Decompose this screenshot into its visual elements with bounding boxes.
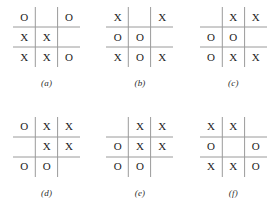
tic-tac-toe-board: XXOOXXO <box>200 117 267 177</box>
board-square-r1-c3[interactable] <box>244 117 266 137</box>
board-square-r2-c1[interactable] <box>13 137 35 157</box>
board-square-r3-c3[interactable] <box>58 157 80 177</box>
board-square-r1-c3[interactable]: O <box>58 7 80 27</box>
board-square-r3-c2[interactable]: X <box>35 47 57 67</box>
board-panel-a: OOXXXXO(a) <box>0 0 93 110</box>
board-square-r3-c3[interactable] <box>151 157 173 177</box>
board-square-r2-c1[interactable]: X <box>13 27 35 47</box>
board-square-r2-c1[interactable]: O <box>200 137 222 157</box>
board-cells: XXOOXOX <box>106 7 173 67</box>
board-panel-e: XXOXXOO(e) <box>93 110 186 220</box>
board-square-r1-c3[interactable]: X <box>244 7 266 27</box>
board-square-r2-c2[interactable]: X <box>129 137 151 157</box>
board-caption: (f) <box>229 188 238 198</box>
board-panel-c: XXOOOXX(c) <box>187 0 280 110</box>
board-square-r3-c3[interactable]: X <box>244 47 266 67</box>
board-panel-f: XXOOXXO(f) <box>187 110 280 220</box>
tic-tac-toe-board: XXOOOXX <box>200 7 267 67</box>
board-cells: XXOXXOO <box>106 117 173 177</box>
board-square-r1-c1[interactable]: O <box>13 7 35 27</box>
board-cells: XXOOOXX <box>200 7 267 67</box>
board-square-r2-c3[interactable]: X <box>151 137 173 157</box>
board-square-r3-c1[interactable]: X <box>106 47 128 67</box>
board-square-r3-c2[interactable]: O <box>35 157 57 177</box>
board-square-r1-c1[interactable] <box>200 7 222 27</box>
board-square-r2-c3[interactable]: O <box>244 137 266 157</box>
board-square-r1-c1[interactable] <box>106 117 128 137</box>
board-panel-b: XXOOXOX(b) <box>93 0 186 110</box>
board-square-r1-c2[interactable] <box>129 7 151 27</box>
board-caption: (e) <box>135 188 146 198</box>
tic-tac-toe-board: OOXXXXO <box>13 7 80 67</box>
board-square-r1-c3[interactable]: X <box>151 117 173 137</box>
board-square-r2-c1[interactable]: O <box>200 27 222 47</box>
board-square-r3-c3[interactable]: O <box>58 47 80 67</box>
board-square-r2-c3[interactable] <box>244 27 266 47</box>
board-square-r3-c2[interactable]: O <box>129 157 151 177</box>
board-square-r1-c2[interactable]: X <box>129 117 151 137</box>
board-panel-d: OXXXXOO(d) <box>0 110 93 220</box>
board-square-r3-c1[interactable]: O <box>13 157 35 177</box>
tic-tac-toe-figure: OOXXXXO(a)XXOOXOX(b)XXOOOXX(c)OXXXXOO(d)… <box>0 0 280 219</box>
board-square-r2-c2[interactable]: X <box>35 137 57 157</box>
board-square-r3-c2[interactable]: O <box>129 47 151 67</box>
board-square-r3-c1[interactable]: O <box>106 157 128 177</box>
board-square-r3-c3[interactable]: O <box>244 157 266 177</box>
board-square-r3-c1[interactable]: O <box>200 47 222 67</box>
board-caption: (d) <box>41 188 52 198</box>
board-square-r3-c1[interactable]: X <box>200 157 222 177</box>
board-square-r2-c2[interactable] <box>222 137 244 157</box>
tic-tac-toe-board: XXOOXOX <box>106 7 173 67</box>
board-square-r1-c1[interactable]: X <box>106 7 128 27</box>
board-square-r3-c2[interactable]: X <box>222 157 244 177</box>
board-square-r1-c3[interactable]: X <box>151 7 173 27</box>
board-square-r3-c1[interactable]: X <box>13 47 35 67</box>
board-square-r1-c1[interactable]: X <box>200 117 222 137</box>
board-square-r1-c2[interactable]: X <box>222 7 244 27</box>
board-square-r2-c3[interactable]: X <box>58 137 80 157</box>
board-square-r1-c2[interactable]: X <box>222 117 244 137</box>
board-cells: OXXXXOO <box>13 117 80 177</box>
board-square-r2-c2[interactable]: O <box>129 27 151 47</box>
board-square-r2-c1[interactable]: O <box>106 137 128 157</box>
board-square-r3-c3[interactable]: X <box>151 47 173 67</box>
board-square-r1-c1[interactable]: O <box>13 117 35 137</box>
board-cells: OOXXXXO <box>13 7 80 67</box>
board-square-r2-c1[interactable]: O <box>106 27 128 47</box>
board-square-r1-c2[interactable] <box>35 7 57 27</box>
board-square-r2-c2[interactable]: O <box>222 27 244 47</box>
board-cells: XXOOXXO <box>200 117 267 177</box>
board-square-r1-c3[interactable]: X <box>58 117 80 137</box>
board-caption: (c) <box>228 78 239 88</box>
board-square-r2-c3[interactable] <box>58 27 80 47</box>
board-square-r2-c2[interactable]: X <box>35 27 57 47</box>
tic-tac-toe-board: XXOXXOO <box>106 117 173 177</box>
tic-tac-toe-board: OXXXXOO <box>13 117 80 177</box>
board-caption: (a) <box>41 78 52 88</box>
board-square-r1-c2[interactable]: X <box>35 117 57 137</box>
board-square-r3-c2[interactable]: X <box>222 47 244 67</box>
board-caption: (b) <box>134 78 145 88</box>
board-square-r2-c3[interactable] <box>151 27 173 47</box>
